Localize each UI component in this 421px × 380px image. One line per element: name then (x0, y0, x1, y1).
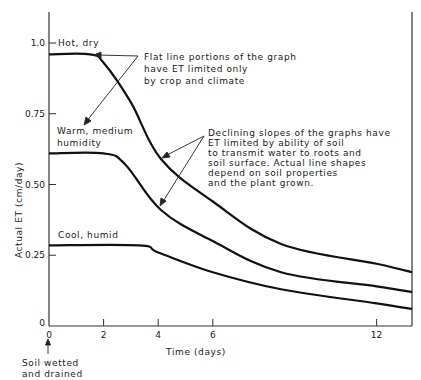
arrow-icon (84, 52, 138, 125)
y-tick-label: 0 (39, 318, 45, 328)
note-decline-line5: depend on soil properties (208, 168, 338, 178)
series-label-warm-line1: Warm, medium (57, 126, 133, 136)
x-tick-label: 12 (371, 330, 382, 340)
note-flat-line2: have ET limited only (144, 64, 248, 74)
series-label-warm-line2: humidity (57, 138, 102, 148)
y-tick-label: 0.50 (25, 180, 45, 190)
series-label-cool: Cool, humid (58, 230, 119, 240)
note-soil-line2: and drained (22, 369, 83, 379)
y-tick-label: 0.25 (25, 250, 45, 260)
annotation-flat: Flat line portions of the graph have ET … (84, 52, 297, 125)
x-tick-label: 6 (210, 330, 216, 340)
x-tick-label: 2 (101, 330, 107, 340)
et-chart: 02461200.250.500.751.0 Hot, dry Warm, me… (0, 0, 421, 380)
note-decline-line6: and the plant grown. (208, 178, 314, 188)
arrow-icon (160, 136, 204, 206)
x-axis-title: Time (days) (165, 347, 226, 357)
note-decline-line2: ET limited by ability of soil (208, 138, 344, 148)
y-axis-title: Actual ET (cm/day) (14, 162, 24, 258)
annotation-decline: Declining slopes of the graphs have ET l… (160, 128, 391, 206)
note-decline-line4: soil surface. Actual line shapes (208, 158, 366, 168)
x-tick-label: 0 (46, 330, 52, 340)
note-decline-line1: Declining slopes of the graphs have (208, 128, 391, 138)
note-decline-line3: to transmit water to roots and (208, 148, 362, 158)
note-soil-line1: Soil wetted (22, 358, 79, 368)
up-arrow-icon (46, 339, 51, 354)
x-tick-label: 4 (155, 330, 161, 340)
series-label-hot: Hot, dry (58, 38, 99, 48)
note-flat-line3: by crop and climate (144, 76, 245, 86)
y-tick-label: 1.0 (31, 38, 46, 48)
annotation-soil: Soil wetted and drained (22, 339, 83, 379)
series-line-cool-humid (49, 245, 412, 309)
note-flat-line1: Flat line portions of the graph (144, 52, 297, 62)
y-tick-label: 0.75 (25, 109, 45, 119)
